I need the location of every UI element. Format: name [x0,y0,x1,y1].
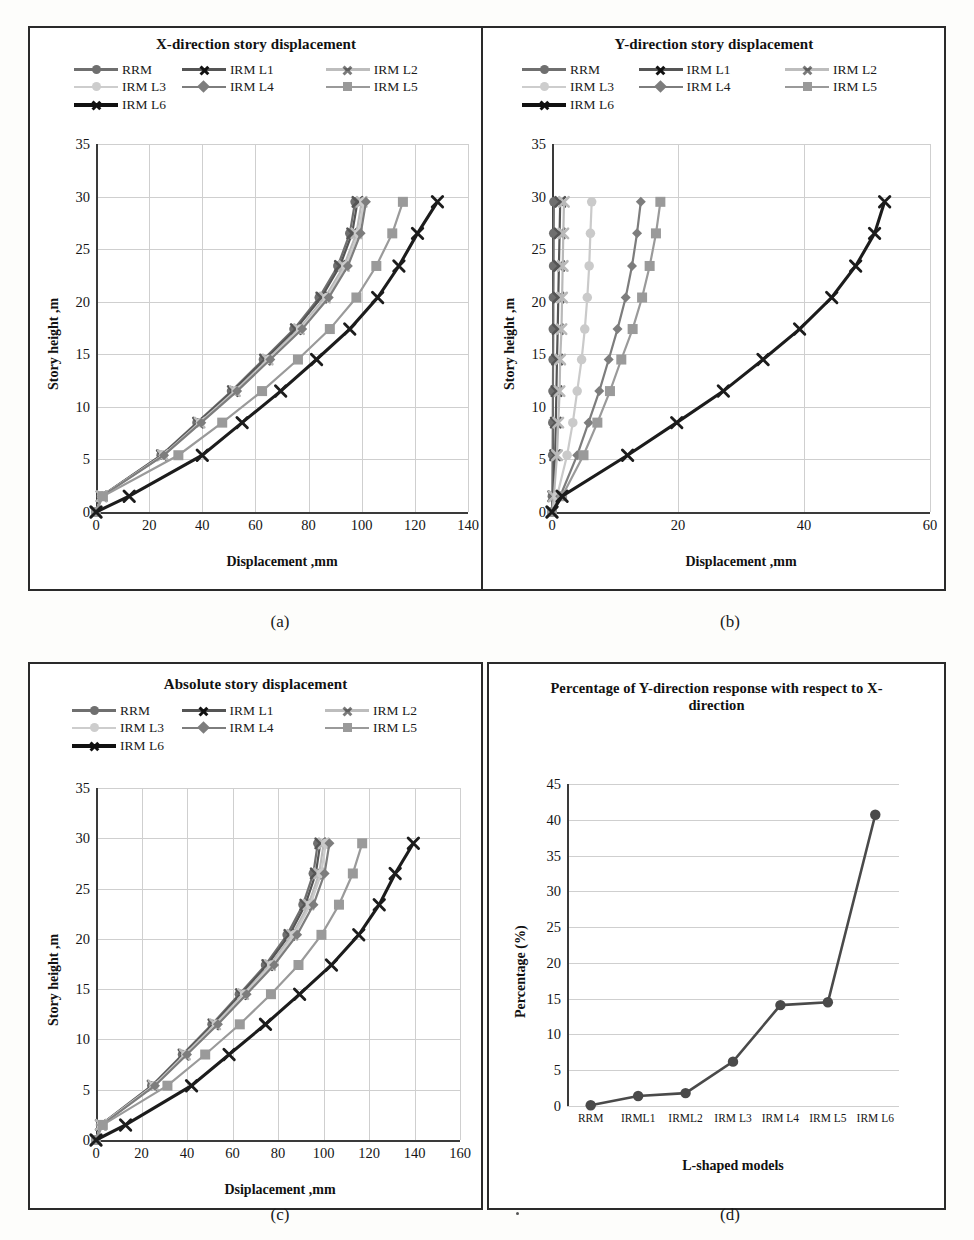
legend-item-irm-l4[interactable]: IRM L4 [639,78,786,96]
legend-swatch-circle-icon [74,81,118,93]
chart-c-legend: RRM IRM L1 IRM L2 [32,702,479,755]
legend-swatch-x-icon [325,704,369,716]
legend-label: IRM L4 [230,80,274,94]
legend-item-irm-l6[interactable]: IRM L6 [492,96,639,114]
legend-item-irm-l3[interactable]: IRM L3 [38,719,182,737]
axis-tick-x: 20 [134,1145,149,1162]
legend-swatch-square-icon [325,722,369,734]
legend-item-irm-l1[interactable]: IRM L1 [639,61,786,79]
legend-swatch-x-icon [72,739,116,751]
axis-tick-y: 30 [532,188,547,205]
axis-tick-y: 0 [539,504,546,521]
legend-item-rrm[interactable]: RRM [38,61,182,79]
panel-a: X-direction story displacement RRM IRM L… [32,30,480,587]
panel-c: Absolute story displacement RRM IRM L1 [32,666,479,1206]
legend-item-irm-l2[interactable]: IRM L2 [326,61,470,79]
legend-item-rrm[interactable]: RRM [38,702,182,720]
axis-tick-y: 0 [83,504,90,521]
legend-item-irm-l1[interactable]: IRM L1 [182,61,326,79]
chart-a-xaxis-title: Displacement ,mm [226,554,337,570]
legend-item-irm-l5[interactable]: IRM L5 [326,78,470,96]
axis-tick-y: 25 [547,919,562,936]
axis-tick-y: 15 [532,346,547,363]
chart-d-plot-area: 051015202530354045RRMIRML1IRML2IRM L3IRM… [567,784,899,1106]
panel-divider-top [481,26,483,591]
series-layer [96,788,466,1146]
chart-c-plot: 05101520253035020406080100120140160 [96,788,460,1140]
legend-item-irm-l4[interactable]: IRM L4 [182,719,326,737]
axis-tick-y: 25 [532,241,547,258]
chart-c-yaxis-title: Story height ,m [46,934,62,1026]
caption-d: (d) [700,1205,760,1225]
legend-swatch-circle-icon [72,722,116,734]
axis-tick-x: 100 [313,1145,335,1162]
caption-a: (a) [250,612,310,632]
legend-swatch-circle-icon [522,63,566,75]
axis-tick-x: 40 [797,517,812,534]
chart-b-legend: RRM IRM L1 IRM L2 [486,61,942,114]
legend-item-irm-l3[interactable]: IRM L3 [38,78,182,96]
axis-tick-x: 160 [449,1145,471,1162]
axis-tick-category: IRML1 [621,1112,656,1124]
axis-tick-x: 40 [195,517,210,534]
series-layer [96,144,474,518]
legend-item-irm-l1[interactable]: IRM L1 [182,702,326,720]
legend-item-irm-l6[interactable]: IRM L6 [38,96,182,114]
axis-tick-y: 5 [83,451,90,468]
chart-b-title: Y-direction story displacement [486,36,942,54]
caption-c: (c) [250,1205,310,1225]
legend-swatch-x-icon [326,63,370,75]
axis-tick-y: 15 [76,981,91,998]
legend-label: IRM L3 [122,80,166,94]
legend-label: IRM L3 [570,80,614,94]
scan-speck [516,1212,519,1215]
axis-tick-y: 10 [547,1026,562,1043]
legend-item-irm-l5[interactable]: IRM L5 [785,78,932,96]
legend-label: IRM L1 [230,63,274,77]
legend-swatch-diamond-icon [182,722,226,734]
legend-label: IRM L5 [374,80,418,94]
legend-swatch-circle-icon [522,81,566,93]
axis-tick-x: 80 [301,517,316,534]
legend-swatch-square-icon [326,81,370,93]
axis-tick-y: 10 [76,1031,91,1048]
legend-label: IRM L6 [120,739,164,753]
legend-swatch-circle-icon [74,63,118,75]
chart-c-plot-area: 05101520253035020406080100120140160 [96,788,460,1140]
axis-tick-y: 35 [547,847,562,864]
chart-a-plot-area: 05101520253035020406080100120140 [96,144,468,512]
legend-item-rrm[interactable]: RRM [492,61,639,79]
legend-swatch-square-icon [785,81,829,93]
legend-item-irm-l6[interactable]: IRM L6 [38,737,182,755]
chart-b-xaxis-title: Displacement ,mm [685,554,796,570]
axis-tick-y: 30 [547,883,562,900]
chart-a-plot: 05101520253035020406080100120140 [96,144,468,512]
legend-item-irm-l3[interactable]: IRM L3 [492,78,639,96]
legend-item-irm-l2[interactable]: IRM L2 [325,702,469,720]
legend-item-irm-l4[interactable]: IRM L4 [182,78,326,96]
chart-a-title: X-direction story displacement [32,36,480,54]
axis-tick-y: 15 [547,990,562,1007]
axis-tick-y: 25 [76,241,91,258]
axis-tick-y: 40 [547,811,562,828]
axis-tick-y: 5 [539,451,546,468]
axis-tick-category: IRM L4 [762,1112,799,1124]
legend-label: IRM L6 [122,98,166,112]
legend-label: RRM [570,63,600,77]
axis-tick-category: IRM L3 [714,1112,751,1124]
axis-tick-y: 20 [76,930,91,947]
axis-tick-x: 0 [92,517,99,534]
chart-d-xaxis-title: L-shaped models [682,1158,784,1174]
legend-label: IRM L4 [230,721,274,735]
legend-item-irm-l5[interactable]: IRM L5 [325,719,469,737]
axis-tick-y: 10 [76,398,91,415]
axis-tick-x: 20 [671,517,686,534]
axis-tick-y: 5 [83,1081,90,1098]
panel-d: Percentage of Y-direction response with … [491,666,942,1206]
legend-label: RRM [122,63,152,77]
legend-label: IRM L4 [687,80,731,94]
legend-label: IRM L2 [833,63,877,77]
axis-tick-y: 0 [83,1132,90,1149]
legend-item-irm-l2[interactable]: IRM L2 [785,61,932,79]
axis-tick-y: 20 [532,293,547,310]
